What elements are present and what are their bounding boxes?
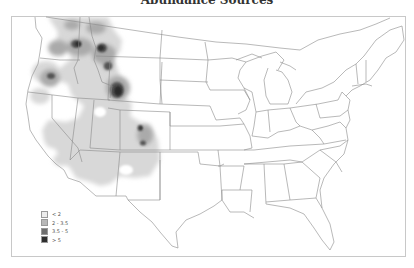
legend-item-gt5: > 5 xyxy=(41,236,68,245)
legend-swatch xyxy=(41,211,48,218)
legend-item-2-3.5: 2 - 3.5 xyxy=(41,219,68,228)
legend-swatch xyxy=(41,228,48,235)
legend-swatch xyxy=(41,236,48,243)
legend-label: < 2 xyxy=(52,211,61,217)
legend-label: 2 - 3.5 xyxy=(52,220,68,226)
legend-swatch xyxy=(41,219,48,226)
density-light xyxy=(30,17,160,186)
legend-label: 3.5 - 5 xyxy=(52,228,68,234)
legend-item-lt2: < 2 xyxy=(41,210,68,219)
legend-label: > 5 xyxy=(52,237,61,243)
map-legend: < 2 2 - 3.5 3.5 - 5 > 5 xyxy=(41,210,68,244)
legend-item-3.5-5: 3.5 - 5 xyxy=(41,227,68,236)
